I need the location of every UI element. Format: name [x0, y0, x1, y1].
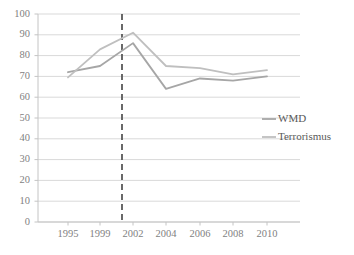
y-axis-ticks — [35, 14, 39, 222]
y-axis-tick-label: 30 — [2, 154, 30, 164]
y-axis-tick-label: 90 — [2, 29, 30, 39]
x-axis-tick-label: 2010 — [247, 229, 287, 239]
legend-swatches — [262, 119, 276, 137]
gridlines-group — [38, 14, 300, 222]
y-axis-tick-label: 0 — [2, 217, 30, 227]
legend-label-wmd: WMD — [278, 113, 306, 124]
y-axis-tick-label: 60 — [2, 92, 30, 102]
y-axis-tick-label: 80 — [2, 50, 30, 60]
chart-canvas — [0, 0, 354, 255]
y-axis-tick-label: 20 — [2, 175, 30, 185]
y-axis-tick-label: 70 — [2, 71, 30, 81]
legend-label-terrorismus: Terrorismus — [278, 131, 331, 142]
y-axis-tick-label: 40 — [2, 133, 30, 143]
y-axis-tick-label: 100 — [2, 9, 30, 19]
line-chart: 0102030405060708090100 19951999200220042… — [0, 0, 354, 255]
series-line-terrorismus — [68, 33, 267, 78]
y-axis-tick-label: 50 — [2, 113, 30, 123]
y-axis-tick-label: 10 — [2, 196, 30, 206]
x-axis-ticks — [68, 222, 267, 226]
data-series-layer — [68, 33, 267, 89]
